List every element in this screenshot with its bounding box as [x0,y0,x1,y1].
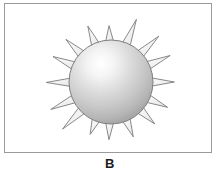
figure-root: B [0,0,220,177]
figure-frame [4,3,212,153]
spike [46,78,72,87]
spiked-sphere-illustration [5,4,211,152]
sphere-body [69,40,153,124]
figure-caption: B [0,155,220,173]
